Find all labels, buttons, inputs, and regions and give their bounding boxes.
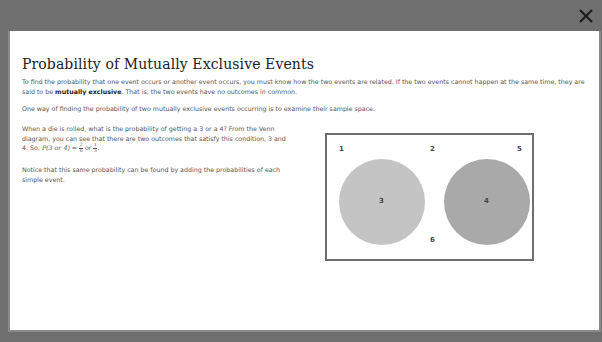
outcome-label-5: 5 [517, 145, 522, 153]
intro-text-end: . That is, the two events have no outcom… [121, 88, 297, 95]
sample-space-paragraph: One way of finding the probability of tw… [22, 104, 590, 114]
sentence-end: . [97, 144, 99, 151]
close-icon [577, 7, 595, 25]
outcome-label-2: 2 [430, 145, 435, 153]
intro-paragraph: To find the probability that one event o… [22, 77, 590, 96]
close-button[interactable] [577, 7, 595, 25]
modal-title: Probability of Mutually Exclusive Events [22, 56, 314, 72]
outcome-label-4: 4 [484, 197, 489, 205]
outcome-label-3: 3 [379, 197, 384, 205]
outcome-label-1: 1 [339, 145, 344, 153]
note-paragraph: Notice that this same probability can be… [22, 165, 292, 184]
probability-expression: P(3 or 4) = [42, 144, 79, 151]
venn-diagram: 1 2 5 6 3 4 [325, 133, 534, 261]
outcome-label-6: 6 [430, 236, 435, 244]
lesson-modal: Probability of Mutually Exclusive Events… [8, 31, 601, 332]
term-mutually-exclusive: mutually exclusive [55, 88, 121, 95]
conjunction-text: or [83, 144, 93, 151]
example-paragraph: When a die is rolled, what is the probab… [22, 124, 292, 153]
